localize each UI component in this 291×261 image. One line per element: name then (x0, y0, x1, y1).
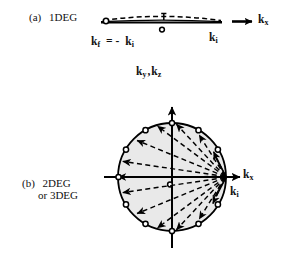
panel-b-system-label-2: or 3DEG (38, 190, 78, 202)
panel-a-lens-upper-edge (101, 20, 222, 22)
panel-b-system-label-1: 2DEG (43, 177, 71, 189)
ki-symbol-a: ki (125, 35, 134, 47)
panel-a-graphics (101, 14, 252, 33)
scattering-diagram-figure: (a) 1DEG kf = - ki ki kx ky,kz (b) 2DEG … (0, 0, 291, 261)
panel-b-label: (b) 2DEG or 3DEG (22, 178, 78, 202)
final-state-marker-9 (215, 202, 220, 207)
final-state-marker-2 (143, 128, 148, 133)
panel-a-label: (a) 1DEG (29, 12, 77, 24)
panel-b-graphics (104, 107, 240, 248)
panel-b-kx-label: kx (243, 168, 253, 181)
kf-symbol: kf (91, 35, 100, 47)
panel-a-final-state-label: kf = - ki (91, 31, 134, 48)
panel-a-origin-marker (160, 27, 165, 32)
panel-a-initial-state-label: ki (209, 31, 218, 44)
panel-a-system-label: 1DEG (49, 11, 77, 23)
final-state-marker-11 (215, 147, 220, 152)
final-state-marker-top (169, 120, 174, 125)
final-state-marker-5 (123, 202, 128, 207)
final-state-marker-3 (123, 147, 128, 152)
panel-b-origin-marker (168, 182, 173, 187)
final-state-marker-bottom (169, 228, 174, 233)
panel-a-final-state-marker (103, 18, 108, 23)
figure-canvas (0, 0, 291, 261)
final-state-marker-left (116, 174, 121, 179)
equals-minus: = - (106, 35, 119, 47)
ky-kz-label: ky,kz (136, 65, 161, 78)
final-state-marker-8 (196, 221, 201, 226)
final-state-marker-6 (143, 221, 148, 226)
panel-a-tag: (a) (29, 11, 41, 23)
panel-a-kx-label: kx (258, 13, 268, 26)
panel-b-tag: (b) (22, 177, 35, 189)
panel-b-ki-label: ki (230, 185, 239, 198)
final-state-marker-12 (196, 128, 201, 133)
